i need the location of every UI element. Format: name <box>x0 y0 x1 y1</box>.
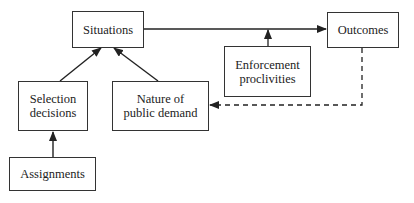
node-selection-line2: decisions <box>30 106 77 120</box>
node-situations: Situations <box>72 11 144 48</box>
node-enforcement-proclivities: Enforcement proclivities <box>224 46 311 97</box>
node-outcomes-label: Outcomes <box>338 23 389 37</box>
node-outcomes: Outcomes <box>327 12 399 48</box>
node-nature-of-public-demand: Nature of public demand <box>112 81 209 131</box>
node-nature-line1: Nature of <box>137 92 185 106</box>
node-enforcement-line1: Enforcement <box>235 58 300 72</box>
edge-nature-situations <box>114 48 158 81</box>
node-situations-label: Situations <box>83 23 133 37</box>
edge-selection-situations <box>60 48 101 81</box>
node-assignments-label: Assignments <box>20 167 85 181</box>
node-selection-decisions: Selection decisions <box>18 81 88 131</box>
node-nature-line2: public demand <box>124 106 198 120</box>
node-selection-line1: Selection <box>30 92 77 106</box>
node-enforcement-line2: proclivities <box>239 72 295 86</box>
node-assignments: Assignments <box>9 157 96 191</box>
